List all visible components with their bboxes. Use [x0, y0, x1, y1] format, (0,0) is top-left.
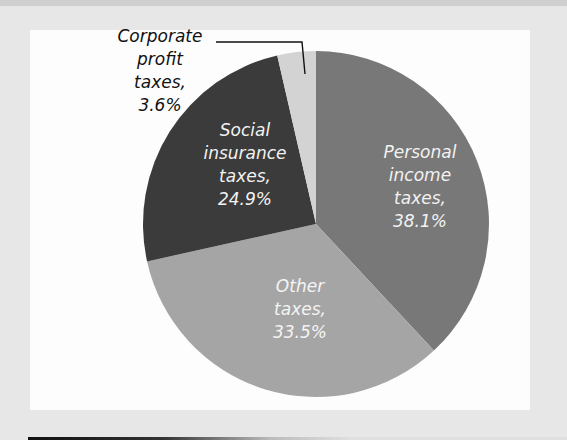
- pie-label-corporate-profit-taxes: Corporateprofittaxes,3.6%: [118, 26, 203, 115]
- pie-label-other-taxes: Othertaxes,33.5%: [273, 276, 327, 342]
- pie-chart: Personalincometaxes,38.1%Othertaxes,33.5…: [0, 0, 567, 440]
